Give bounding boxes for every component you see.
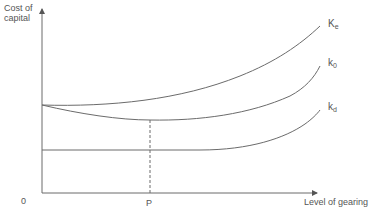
kd-subscript: d xyxy=(333,106,337,113)
k0-curve xyxy=(42,66,320,120)
ke-curve xyxy=(42,26,320,105)
origin-label: 0 xyxy=(21,197,26,207)
x-axis-label: Level of gearing xyxy=(304,198,368,208)
k0-subscript: 0 xyxy=(333,62,337,69)
p-label: P xyxy=(146,199,152,209)
kd-curve xyxy=(42,110,320,150)
ke-subscript: e xyxy=(335,23,339,30)
ke-curve-label: Ke xyxy=(328,18,339,31)
y-axis-label-line2: capital xyxy=(4,14,33,24)
ke-base: K xyxy=(328,18,335,29)
kd-curve-label: kd xyxy=(328,101,337,114)
k0-curve-label: k0 xyxy=(328,57,337,70)
gearing-chart xyxy=(0,0,374,212)
y-axis-label: Cost of capital xyxy=(4,4,33,24)
